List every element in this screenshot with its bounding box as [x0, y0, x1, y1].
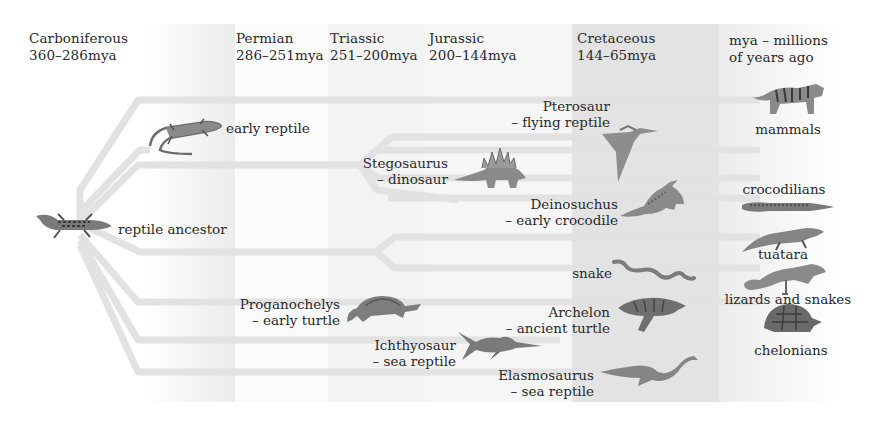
taxon-desc: – sea reptile	[480, 383, 594, 399]
period-name: Triassic	[330, 30, 418, 47]
chelonians-label: chelonians	[744, 342, 838, 358]
crocodile-icon	[740, 199, 836, 219]
ichthyosaur-label: Ichthyosaur – sea reptile	[362, 337, 456, 369]
legend-line-1: mya – millions	[729, 32, 828, 49]
proganochelys-label: Proganochelys – early turtle	[222, 296, 340, 328]
early-reptile-label: early reptile	[226, 120, 310, 136]
lizard-icon	[146, 116, 222, 162]
period-range: 286–251mya	[236, 47, 324, 64]
sea-turtle-icon	[614, 294, 690, 338]
taxon-desc: – early crocodile	[480, 212, 618, 228]
taxon-name: Archelon	[490, 304, 610, 320]
taxon-desc: – flying reptile	[472, 114, 610, 130]
period-carboniferous: Carboniferous 360–286mya	[29, 30, 128, 64]
period-range: 144–65mya	[577, 47, 656, 64]
mya-legend: mya – millions of years ago	[729, 32, 828, 66]
crocodilians-label: crocodilians	[738, 181, 830, 197]
tortoise-icon	[762, 300, 824, 338]
ichthyosaur-icon	[456, 330, 544, 368]
period-permian: Permian 286–251mya	[236, 30, 324, 64]
period-cretaceous: Cretaceous 144–65mya	[577, 30, 656, 64]
taxon-desc: – sea reptile	[362, 353, 456, 369]
plesiosaur-icon	[598, 352, 700, 392]
period-triassic: Triassic 251–200mya	[330, 30, 418, 64]
reptile-ancestor-label: reptile ancestor	[118, 221, 227, 237]
taxon-name: Deinosuchus	[480, 196, 618, 212]
period-name: Jurassic	[429, 30, 517, 47]
period-jurassic: Jurassic 200–144mya	[429, 30, 517, 64]
lizard-icon	[34, 210, 114, 244]
taxon-desc: – early turtle	[222, 312, 340, 328]
elasmosaurus-label: Elasmosaurus – sea reptile	[480, 367, 594, 399]
period-name: Cretaceous	[577, 30, 656, 47]
deinosuchus-label: Deinosuchus – early crocodile	[480, 196, 618, 228]
taxon-name: Proganochelys	[222, 296, 340, 312]
pterosaur-label: Pterosaur – flying reptile	[472, 98, 610, 130]
taxon-desc: – dinosaur	[340, 171, 448, 187]
taxon-name: Stegosaurus	[340, 155, 448, 171]
stegosaurus-label: Stegosaurus – dinosaur	[340, 155, 448, 187]
stegosaurus-icon	[452, 140, 528, 194]
legend-line-2: of years ago	[729, 49, 828, 66]
period-name: Permian	[236, 30, 324, 47]
taxon-name: Pterosaur	[472, 98, 610, 114]
period-range: 360–286mya	[29, 47, 128, 64]
turtle-icon	[343, 292, 423, 330]
period-range: 251–200mya	[330, 47, 418, 64]
period-range: 200–144mya	[429, 47, 517, 64]
mammals-label: mammals	[748, 121, 828, 137]
taxon-name: Ichthyosaur	[362, 337, 456, 353]
crocodile-icon	[618, 178, 688, 224]
period-name: Carboniferous	[29, 30, 128, 47]
snake-icon	[612, 258, 696, 288]
tiger-icon	[748, 82, 828, 122]
snake-label: snake	[560, 265, 612, 281]
taxon-name: Elasmosaurus	[480, 367, 594, 383]
